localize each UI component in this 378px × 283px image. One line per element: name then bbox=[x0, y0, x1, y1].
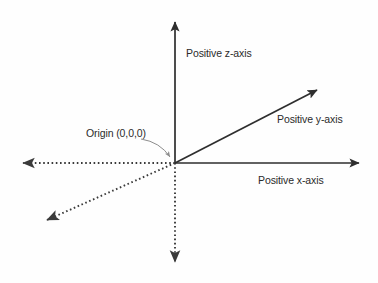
origin-label: Origin (0,0,0) bbox=[86, 127, 146, 139]
origin-leader-line bbox=[141, 139, 170, 157]
positive-y-axis-label: Positive y-axis bbox=[277, 113, 343, 125]
positive-x-axis-label: Positive x-axis bbox=[258, 174, 324, 186]
axes-svg bbox=[0, 0, 378, 283]
negative-y-axis-line bbox=[47, 163, 175, 220]
positive-z-axis-label: Positive z-axis bbox=[186, 47, 252, 59]
positive-y-axis-line bbox=[175, 90, 317, 163]
coordinate-axes-diagram: Positive z-axis Positive y-axis Positive… bbox=[0, 0, 378, 283]
